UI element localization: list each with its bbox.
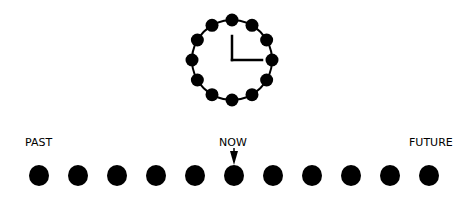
timeline-dot [146, 165, 166, 186]
timeline-dot [68, 165, 88, 186]
timeline-dot [29, 165, 49, 186]
clock-hour-marker [191, 74, 204, 87]
timeline-diagram: PAST NOW FUTURE [0, 0, 475, 203]
now-label: NOW [219, 136, 247, 149]
timeline-dot-now [224, 165, 244, 186]
timeline-dot [380, 165, 400, 186]
clock-hour-marker [226, 14, 239, 27]
clock-hour-marker [191, 34, 204, 47]
timeline-dot [107, 165, 127, 186]
clock-hour-marker [186, 54, 199, 67]
past-label: PAST [25, 136, 52, 149]
clock-hour-marker [266, 54, 279, 67]
timeline-dot [419, 165, 439, 186]
clock-hour-marker [206, 19, 219, 32]
timeline-dot [263, 165, 283, 186]
timeline-dot [341, 165, 361, 186]
timeline-dot [185, 165, 205, 186]
timeline-dot [302, 165, 322, 186]
clock-hour-marker [226, 94, 239, 107]
clock-hour-marker [260, 34, 273, 47]
clock-hour-marker [246, 88, 259, 101]
future-label: FUTURE [409, 136, 453, 149]
clock-hour-marker [260, 74, 273, 87]
clock-hour-marker [246, 19, 259, 32]
clock-hour-marker [206, 88, 219, 101]
